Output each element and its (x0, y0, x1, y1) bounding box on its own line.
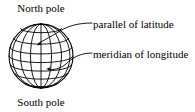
globe-diagram: North pole South pole parallel of latitu… (0, 0, 195, 112)
meridian-lines (12, 24, 70, 88)
parallel-leader-line (39, 23, 93, 44)
label-south-pole: South pole (0, 96, 82, 108)
label-parallel-of-latitude: parallel of latitude (93, 18, 174, 30)
globe-group (9, 24, 73, 88)
label-meridian-of-longitude: meridian of longitude (93, 48, 188, 60)
label-north-pole: North pole (0, 2, 82, 14)
